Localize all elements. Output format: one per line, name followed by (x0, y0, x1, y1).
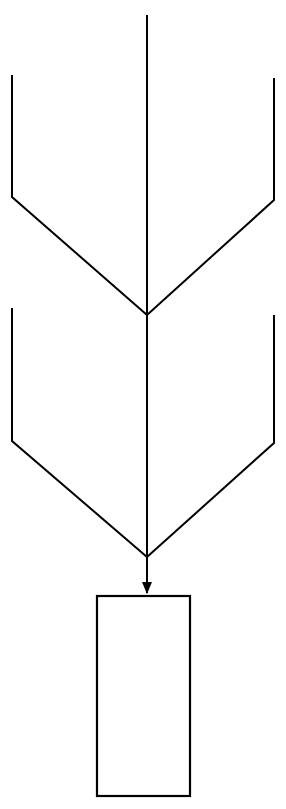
diagram-canvas (0, 0, 286, 809)
canvas-background (0, 0, 286, 809)
merge-diagram (0, 0, 286, 809)
